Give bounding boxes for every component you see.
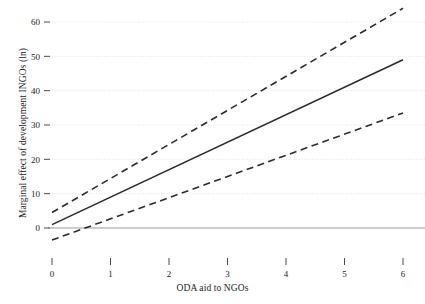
x-tick-label: 5 xyxy=(342,269,347,279)
y-tick-label: 0 xyxy=(36,223,41,233)
x-tick-label: 2 xyxy=(167,269,172,279)
marginal-effect-plot: 0123456 0102030405060 Marginal effect of… xyxy=(0,0,425,304)
y-axis-tick-labels: 0102030405060 xyxy=(31,17,41,233)
y-tick-label: 60 xyxy=(31,17,41,27)
plot-canvas: 0123456 0102030405060 xyxy=(0,0,425,304)
x-tick-label: 0 xyxy=(50,269,55,279)
x-tick-label: 3 xyxy=(225,269,230,279)
gridlines-group xyxy=(52,22,425,194)
y-tick-label: 50 xyxy=(31,52,41,62)
y-axis-title: Marginal effect of development INGOs (ln… xyxy=(18,18,28,248)
x-tick-label: 6 xyxy=(401,269,406,279)
y-tick-label: 40 xyxy=(31,86,41,96)
series-line xyxy=(52,113,403,240)
series-line xyxy=(52,8,403,212)
y-axis-ticks xyxy=(44,22,50,228)
y-tick-label: 30 xyxy=(31,120,41,130)
series-line xyxy=(52,60,403,225)
x-axis-tick-labels: 0123456 xyxy=(50,269,406,279)
series-group xyxy=(52,8,403,240)
y-tick-label: 10 xyxy=(31,189,41,199)
y-tick-label: 20 xyxy=(31,155,41,165)
x-axis-title: ODA aid to NGOs xyxy=(0,283,425,293)
x-axis-ticks xyxy=(52,258,403,265)
x-tick-label: 4 xyxy=(284,269,289,279)
x-tick-label: 1 xyxy=(108,269,113,279)
